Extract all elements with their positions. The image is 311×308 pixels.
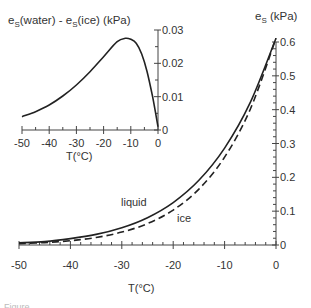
x-tick-label: -40 (41, 137, 57, 149)
x-tick-label: 0 (273, 259, 279, 271)
y-tick-label: 0.4 (280, 104, 295, 116)
main-y-axis-label: eS (kPa) (255, 10, 298, 25)
y-tick-label: 0 (162, 124, 168, 136)
main-x-tick-labels: -50-40-30-20-100 (11, 259, 279, 271)
ice-curve (19, 38, 276, 244)
main-y-tick-labels: 00.10.20.30.40.50.6 (280, 36, 295, 251)
x-tick-label: 0 (155, 137, 161, 149)
inset-title: eS(water) - eS(ice) (kPa) (8, 14, 131, 29)
x-tick-label: -20 (96, 137, 112, 149)
y-tick-label: 0.02 (162, 57, 183, 69)
figure-caption-fragment: Figure (4, 300, 44, 308)
y-tick-label: 0.01 (162, 91, 183, 103)
x-tick-label: -50 (14, 137, 30, 149)
main-x-axis-label: T(°C) (128, 282, 154, 294)
chart-canvas: eS(water) - eS(ice) (kPa) -50-40-30-20-1… (0, 0, 311, 308)
inset-x-axis-label: T(°C) (66, 150, 92, 162)
y-tick-label: 0.1 (280, 205, 295, 217)
x-tick-label: -20 (165, 259, 181, 271)
x-tick-label: -30 (68, 137, 84, 149)
y-tick-label: 0.2 (280, 171, 295, 183)
x-tick-label: -50 (11, 259, 27, 271)
inset-y-tick-labels: 00.010.020.03 (162, 24, 183, 136)
x-tick-label: -40 (62, 259, 78, 271)
y-tick-label: 0.5 (280, 70, 295, 82)
x-tick-label: -10 (217, 259, 233, 271)
main-chart: eS (kPa) -50-40-30-20-100 T(°C) 00.10.20… (11, 10, 298, 294)
y-tick-label: 0.6 (280, 36, 295, 48)
x-tick-label: -10 (123, 137, 139, 149)
x-tick-label: -30 (114, 259, 130, 271)
inset-difference-curve (22, 38, 158, 127)
y-tick-label: 0.3 (280, 138, 295, 150)
ice-label: ice (177, 212, 191, 224)
inset-x-tick-labels: -50-40-30-20-100 (14, 137, 161, 149)
y-tick-label: 0 (280, 239, 286, 251)
inset-chart: eS(water) - eS(ice) (kPa) -50-40-30-20-1… (8, 14, 183, 162)
y-tick-label: 0.03 (162, 24, 183, 36)
liquid-curve (19, 38, 276, 243)
liquid-label: liquid (121, 196, 147, 208)
